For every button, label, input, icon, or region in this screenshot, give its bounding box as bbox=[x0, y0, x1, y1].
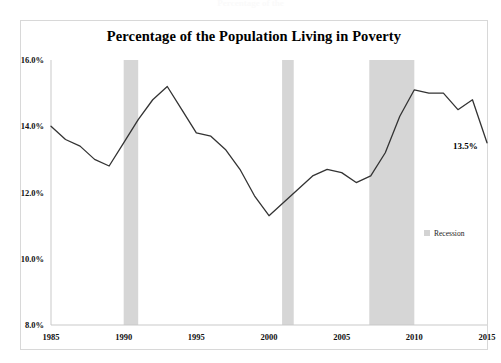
recession-1990-band bbox=[124, 60, 139, 325]
x-tick-1985: 1985 bbox=[43, 332, 60, 342]
x-tick-2005: 2005 bbox=[333, 332, 350, 342]
y-tick-140: 14.0% bbox=[21, 121, 44, 131]
recession-2001-band bbox=[282, 60, 294, 325]
chart-page: Percentage of the Percentage of the Popu… bbox=[0, 0, 501, 363]
x-tick-1995: 1995 bbox=[188, 332, 205, 342]
poverty-rate-line bbox=[51, 87, 487, 216]
data-series-group bbox=[51, 87, 487, 216]
poverty-line-chart: 8.0%10.0%12.0%14.0%16.0% 198519901995200… bbox=[0, 0, 501, 363]
y-tick-80: 8.0% bbox=[25, 320, 44, 330]
x-tick-1990: 1990 bbox=[115, 332, 132, 342]
chart-legend: Recession bbox=[424, 229, 465, 238]
y-tick-160: 16.0% bbox=[21, 55, 44, 65]
y-tick-labels: 8.0%10.0%12.0%14.0%16.0% bbox=[21, 55, 44, 330]
recession-2008-band bbox=[369, 60, 414, 325]
x-tick-labels: 1985199019952000200520102015 bbox=[43, 332, 496, 342]
y-tick-120: 12.0% bbox=[21, 188, 44, 198]
legend-swatch-recession bbox=[424, 230, 430, 236]
x-tick-2010: 2010 bbox=[406, 332, 423, 342]
x-tick-2000: 2000 bbox=[261, 332, 278, 342]
endpoint-value-label: 13.5% bbox=[453, 141, 478, 151]
x-tick-2015: 2015 bbox=[479, 332, 496, 342]
legend-label-recession: Recession bbox=[434, 229, 465, 238]
recession-bands bbox=[124, 60, 415, 325]
axis-lines bbox=[51, 60, 487, 325]
annotation-group: 13.5% bbox=[453, 141, 478, 151]
y-tick-100: 10.0% bbox=[21, 254, 44, 264]
